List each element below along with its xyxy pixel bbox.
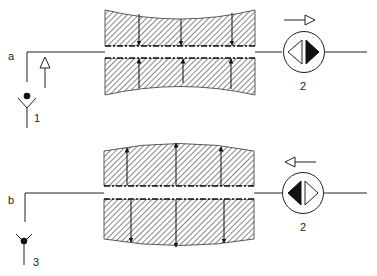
hollow-up-arrow-icon xyxy=(40,57,50,88)
tube-lumen-b xyxy=(104,186,254,199)
tube-wall-lower-b xyxy=(104,199,254,246)
flow-arrow-left-icon xyxy=(285,157,316,167)
valve-ball-icon xyxy=(24,93,31,100)
pump-symbol-a xyxy=(284,32,325,73)
panel-b: b 3 xyxy=(8,143,367,268)
valve-ball-icon xyxy=(21,238,28,245)
inlet-number-3: 3 xyxy=(33,256,39,268)
pump-number-a: 2 xyxy=(300,80,306,92)
panel-a: a 1 xyxy=(8,10,367,128)
inlet-number-1: 1 xyxy=(34,112,40,124)
diagram-canvas: a 1 xyxy=(0,0,377,276)
flow-arrow-right-icon xyxy=(284,15,315,25)
pump-symbol-b xyxy=(283,173,324,214)
panel-label-b: b xyxy=(8,194,14,206)
valve-symbol-3 xyxy=(16,234,32,265)
pump-number-b: 2 xyxy=(300,221,306,233)
tube-wall-lower-a xyxy=(105,58,255,95)
panel-label-a: a xyxy=(8,50,15,62)
tube-lumen-a xyxy=(105,46,255,58)
